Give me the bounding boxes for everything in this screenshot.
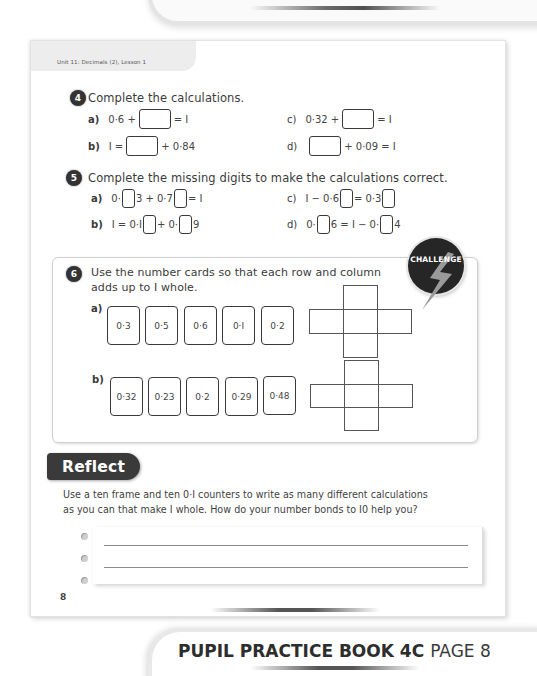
expression-text: + 0· <box>157 219 178 230</box>
number-card[interactable]: 0·5 <box>145 306 178 345</box>
answer-box[interactable] <box>139 109 171 129</box>
digit-box[interactable] <box>174 189 187 208</box>
item-label: c) <box>287 193 296 204</box>
q4-item-d: d) + 0·09 = I <box>287 135 396 157</box>
expression-text: 0· <box>306 219 316 230</box>
book-title: PUPIL PRACTICE BOOK 4C <box>178 641 424 661</box>
number-card[interactable]: 0·6 <box>184 306 217 345</box>
decorative-bar <box>250 666 420 670</box>
expression-text: + 0·09 = I <box>344 141 396 152</box>
q4-item-a: a) 0·6 + = I <box>88 108 188 130</box>
expression-text: I = <box>109 141 124 152</box>
question-title: Complete the calculations. <box>88 91 244 105</box>
expression-text: 9 <box>193 219 199 230</box>
q4-item-b: b) I = + 0·84 <box>88 135 195 157</box>
digit-box[interactable] <box>179 215 192 234</box>
expression-text: I − 0·6 <box>305 193 339 204</box>
item-label: a) <box>91 193 102 204</box>
expression-text: I = 0·I <box>112 219 142 230</box>
grid-cell-bottom[interactable] <box>343 333 378 358</box>
reflect-prompt-line1: Use a ten frame and ten 0·I counters to … <box>63 487 483 502</box>
q5-item-c: c) I − 0·6 = 0·3 <box>287 187 396 209</box>
challenge-label: CHALLENGE <box>408 255 464 264</box>
number-card[interactable]: 0·3 <box>107 306 140 345</box>
grid-cell-right[interactable] <box>377 309 412 334</box>
grid-cell-left[interactable] <box>309 309 344 334</box>
expression-text: = I <box>188 193 203 204</box>
digit-box[interactable] <box>340 189 353 208</box>
decorative-bar <box>210 608 380 612</box>
page-number: 8 <box>60 592 66 602</box>
grid-cell-top[interactable] <box>344 360 379 385</box>
answer-box[interactable] <box>342 109 374 129</box>
expression-text: 0·32 + <box>305 114 339 125</box>
expression-text: = 0·3 <box>354 193 381 204</box>
digit-box[interactable] <box>122 189 135 208</box>
unit-tab <box>31 41 196 71</box>
digit-box[interactable] <box>317 215 330 234</box>
reflect-prompt: Use a ten frame and ten 0·I counters to … <box>63 487 483 517</box>
challenge-badge: CHALLENGE <box>408 238 464 294</box>
q5-item-d: d) 0· 6 = I − 0· 4 <box>287 213 401 235</box>
expression-text: 0·6 + <box>108 114 135 125</box>
item-label: d) <box>287 219 297 230</box>
binder-hole <box>81 533 88 540</box>
number-card[interactable]: 0·I <box>222 306 255 345</box>
writing-line[interactable] <box>104 545 468 546</box>
expression-text: 6 = I − 0· <box>331 219 379 230</box>
expression-text: = I <box>174 114 189 125</box>
previous-caption-pill <box>148 0 537 25</box>
part-label: a) <box>91 303 102 314</box>
book-page: PAGE 8 <box>430 641 491 661</box>
unit-label: Unit 11: Decimals (2), Lesson 1 <box>57 59 146 65</box>
binder-hole <box>81 555 88 562</box>
grid-cell-top[interactable] <box>343 285 378 310</box>
expression-text: = I <box>377 114 392 125</box>
grid-cell-bottom[interactable] <box>344 407 379 431</box>
answer-box[interactable] <box>126 136 158 156</box>
number-card[interactable]: 0·23 <box>148 377 181 416</box>
grid-cell-right[interactable] <box>378 384 413 408</box>
item-label: b) <box>88 141 100 152</box>
item-label: d) <box>287 141 297 152</box>
q5-item-b: b) I = 0·I + 0· 9 <box>91 213 199 235</box>
question-number-badge: 5 <box>66 170 82 186</box>
question-title: Complete the missing digits to make the … <box>88 171 448 185</box>
writing-line[interactable] <box>104 567 468 568</box>
grid-cell-center[interactable] <box>344 384 379 408</box>
item-label: c) <box>287 114 296 125</box>
grid-cell-center[interactable] <box>343 309 378 334</box>
number-card[interactable]: 0·29 <box>225 377 258 416</box>
number-card[interactable]: 0·48 <box>263 376 296 415</box>
decorative-bar <box>250 6 440 10</box>
answer-box[interactable] <box>309 136 341 156</box>
q4-item-c: c) 0·32 + = I <box>287 108 392 130</box>
number-card[interactable]: 0·2 <box>261 306 294 345</box>
q5-item-a: a) 0· 3 + 0·7 = I <box>91 187 202 209</box>
expression-text: 3 + 0·7 <box>136 193 173 204</box>
notepad-writing-area[interactable] <box>93 527 483 584</box>
item-label: b) <box>91 219 103 230</box>
part-label: b) <box>92 374 104 385</box>
number-card[interactable]: 0·32 <box>110 377 143 416</box>
expression-text: 0· <box>111 193 121 204</box>
book-caption: PUPIL PRACTICE BOOK 4CPAGE 8 <box>178 641 491 661</box>
question-number-badge: 4 <box>70 90 86 106</box>
expression-text: 4 <box>394 219 400 230</box>
item-label: a) <box>88 114 99 125</box>
expression-text: + 0·84 <box>161 141 195 152</box>
reflect-prompt-line2: as you can that make I whole. How do you… <box>63 502 483 517</box>
grid-cell-left[interactable] <box>310 384 345 408</box>
digit-box[interactable] <box>380 215 393 234</box>
number-card[interactable]: 0·2 <box>186 377 219 416</box>
question-title-line2: adds up to I whole. <box>91 281 198 294</box>
question-number-badge: 6 <box>66 266 82 282</box>
binder-hole <box>81 577 88 584</box>
reflect-heading: Reflect <box>47 453 140 480</box>
digit-box[interactable] <box>143 215 156 234</box>
digit-box[interactable] <box>382 189 395 208</box>
question-title-line1: Use the number cards so that each row an… <box>91 266 381 279</box>
